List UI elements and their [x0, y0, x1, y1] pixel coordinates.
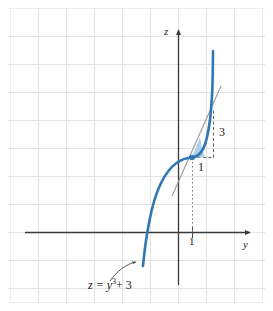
equation-prefix: z = y [88, 278, 112, 292]
math-figure: z y 3 1 1 z = y3+ 3 [0, 0, 273, 311]
equation-suffix: + 3 [116, 278, 132, 292]
run-label: 1 [198, 161, 204, 173]
x-tick-label: 1 [189, 236, 195, 247]
figure-background [0, 0, 273, 311]
curve-equation-label: z = y3+ 3 [88, 278, 132, 291]
y-axis-label: y [243, 239, 248, 250]
graph-canvas [0, 0, 273, 311]
z-axis-label: z [164, 26, 168, 37]
tangent-point-marker [189, 155, 195, 161]
rise-label: 3 [219, 126, 225, 138]
